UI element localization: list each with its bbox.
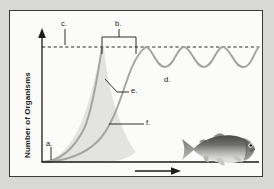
y-axis-arrowhead [38,28,46,38]
callout-label-c: c. [61,19,67,28]
shaded-difference-region [42,47,136,163]
y-axis-title: Number of Organisms [23,72,32,158]
fish-pupil [250,144,253,147]
callout-label-a: a. [46,139,52,148]
overshoot-bracket [102,37,136,54]
oscillation-curve [146,47,259,67]
population-growth-figure: a. b. c. d. e. f. Number of Organisms Ti… [0,0,274,189]
callout-label-d: d. [164,75,170,84]
callout-label-f: f. [146,118,150,127]
fish-anal-fin [203,156,209,162]
figure-frame: a. b. c. d. e. f. Number of Organisms Ti… [9,10,263,177]
fish-illustration [180,129,258,171]
callout-label-e: e. [131,86,137,95]
callout-label-b: b. [115,19,121,28]
